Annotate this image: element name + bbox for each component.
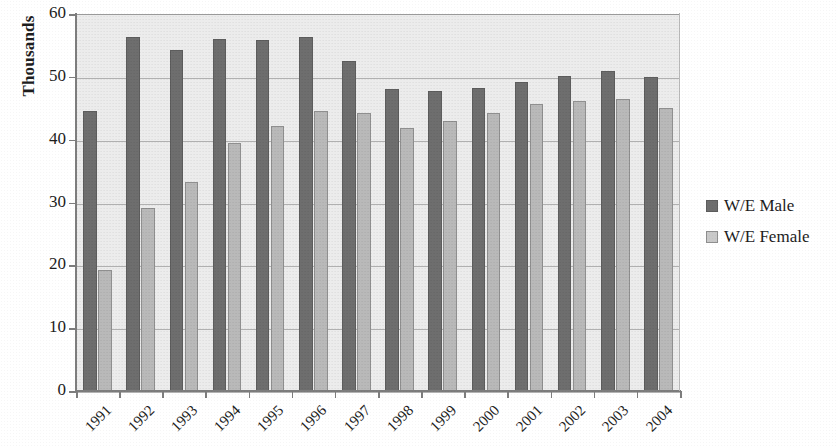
- bar-male-1994: [213, 39, 227, 391]
- x-axis-tick: [551, 391, 553, 398]
- x-axis-tick: [507, 391, 509, 398]
- legend-item-female: W/E Female: [706, 227, 809, 247]
- y-axis-tick-label: 50: [22, 66, 66, 86]
- bar-female-2003: [616, 99, 630, 391]
- bar-male-1992: [126, 37, 140, 391]
- bar-male-1997: [342, 61, 356, 391]
- bar-female-1996: [314, 111, 328, 391]
- bar-male-2001: [515, 82, 529, 391]
- y-axis-tick-labels: 0102030405060: [14, 0, 66, 391]
- bar-male-1998: [385, 89, 399, 391]
- legend-swatch-male-icon: [706, 200, 718, 212]
- y-axis-tick: [69, 14, 77, 16]
- x-axis-tick: [594, 391, 596, 398]
- gridline: [76, 78, 680, 79]
- x-axis-tick: [680, 391, 682, 398]
- legend-swatch-female-icon: [706, 231, 718, 243]
- x-axis-tick: [421, 391, 423, 398]
- bar-female-1997: [357, 113, 371, 391]
- bar-female-2001: [530, 104, 544, 391]
- chart-figure: Thousands 0102030405060 1991199219931994…: [0, 0, 836, 447]
- bar-male-1999: [428, 91, 442, 391]
- x-axis-tick: [378, 391, 380, 398]
- y-axis-tick: [69, 265, 77, 267]
- x-axis-tick: [249, 391, 251, 398]
- y-axis-tick-label: 60: [22, 3, 66, 23]
- bar-female-2004: [659, 108, 673, 391]
- y-axis-tick: [69, 77, 77, 79]
- y-axis-tick-label: 10: [22, 317, 66, 337]
- x-axis-tick: [162, 391, 164, 398]
- gridline: [76, 204, 680, 205]
- bar-female-1994: [228, 143, 242, 391]
- x-axis-tick-label-2004: 2004: [621, 402, 675, 447]
- bar-male-1995: [256, 40, 270, 391]
- bar-male-2002: [558, 76, 572, 391]
- y-axis-tick-label: 40: [22, 129, 66, 149]
- y-axis-tick: [69, 203, 77, 205]
- y-axis-tick-label: 20: [22, 254, 66, 274]
- y-axis-tick: [69, 140, 77, 142]
- plot-right-border: [679, 13, 680, 391]
- legend-label: W/E Female: [724, 227, 809, 247]
- bar-female-1991: [98, 270, 112, 391]
- gridline: [76, 329, 680, 330]
- x-axis-tick: [637, 391, 639, 398]
- bar-female-1998: [400, 128, 414, 391]
- x-axis-tick: [119, 391, 121, 398]
- bar-male-1993: [170, 50, 184, 391]
- y-axis-tick-label: 0: [22, 380, 66, 400]
- bar-male-1991: [83, 111, 97, 391]
- x-axis-tick: [464, 391, 466, 398]
- bar-female-1992: [141, 208, 155, 391]
- legend-item-male: W/E Male: [706, 196, 809, 216]
- x-axis-tick: [335, 391, 337, 398]
- bar-male-2000: [472, 88, 486, 391]
- legend: W/E MaleW/E Female: [706, 196, 809, 258]
- legend-label: W/E Male: [724, 196, 794, 216]
- bar-female-1999: [443, 121, 457, 391]
- bar-female-1995: [271, 126, 285, 391]
- bar-male-1996: [299, 37, 313, 391]
- bar-male-2003: [601, 71, 615, 391]
- x-axis-tick: [205, 391, 207, 398]
- x-axis-tick: [76, 391, 78, 398]
- bar-female-1993: [185, 182, 199, 391]
- gridline: [76, 266, 680, 267]
- y-axis-tick: [69, 328, 77, 330]
- x-axis-tick: [292, 391, 294, 398]
- plot-area: [76, 14, 680, 391]
- gridline: [76, 141, 680, 142]
- y-axis-tick-label: 30: [22, 192, 66, 212]
- bar-male-2004: [644, 77, 658, 391]
- bar-female-2002: [573, 101, 587, 391]
- bar-female-2000: [487, 113, 501, 391]
